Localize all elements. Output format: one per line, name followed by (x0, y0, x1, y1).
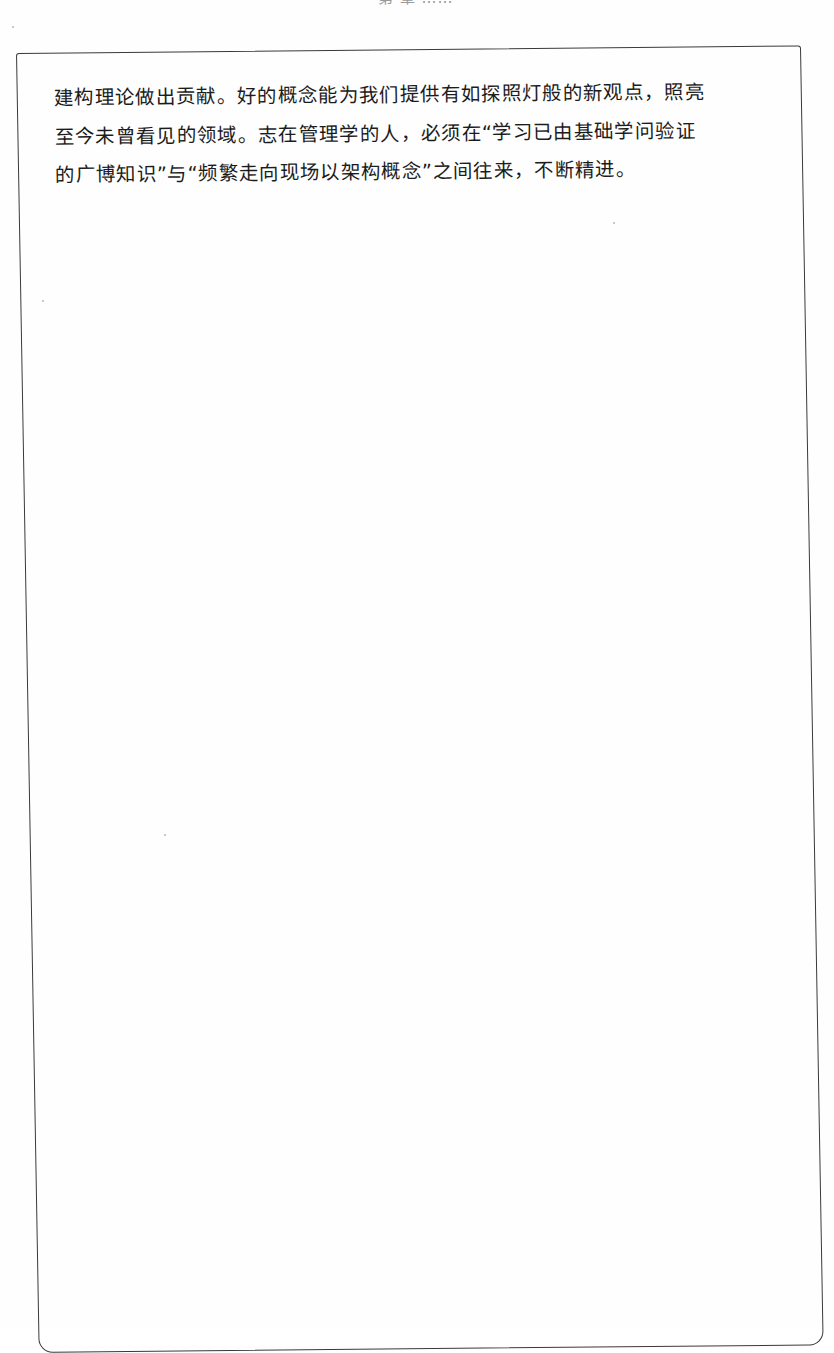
scan-speck (164, 834, 166, 836)
body-line-1: 建构理论做出贡献。好的概念能为我们提供有如探照灯般的新观点，照亮 (53, 73, 794, 119)
scan-speck (613, 222, 615, 224)
running-header: 第 章 …… (378, 0, 818, 6)
body-line-2: 至今未曾看见的领域。志在管理学的人，必须在“学习已由基础学问验证 (54, 111, 795, 157)
text-box-frame: 建构理论做出贡献。好的概念能为我们提供有如探照灯般的新观点，照亮 至今未曾看见的… (16, 45, 826, 1352)
scan-speck (42, 300, 44, 302)
scan-speck (12, 26, 14, 28)
bordered-box (16, 45, 824, 1352)
box-body-text: 建构理论做出贡献。好的概念能为我们提供有如探照灯般的新观点，照亮 至今未曾看见的… (53, 73, 795, 196)
body-line-3: 的广博知识”与“频繁走向现场以架构概念”之间往来，不断精进。 (55, 150, 796, 196)
